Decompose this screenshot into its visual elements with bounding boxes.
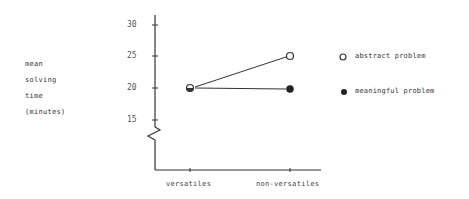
abstract-problem-marker	[287, 53, 294, 60]
meaningful-problem-line	[195, 88, 286, 89]
x-category-non-versatiles: non-versatiles	[256, 180, 319, 188]
legend-meaningful-problem: meaningful problem	[355, 87, 434, 95]
legend-open-circle-icon	[340, 54, 346, 60]
legend-filled-circle-icon	[341, 89, 347, 95]
axis-break-icon	[148, 127, 160, 140]
chart-plot-area	[0, 0, 469, 199]
meaningful-problem-marker	[286, 85, 294, 93]
abstract-problem-line	[195, 57, 286, 87]
x-category-versatiles: versatiles	[166, 180, 211, 188]
legend-abstract-problem: abstract problem	[355, 52, 426, 60]
